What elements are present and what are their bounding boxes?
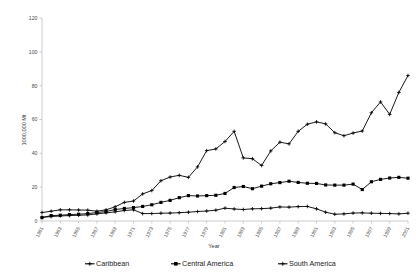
data-point-marker — [150, 203, 153, 206]
y-tick-label: 80 — [32, 83, 38, 89]
x-tick-label: 1979 — [199, 225, 210, 238]
data-point-marker — [59, 214, 62, 217]
legend-label: Central America — [182, 259, 233, 268]
data-point-marker — [297, 181, 300, 184]
data-point-marker — [287, 180, 290, 183]
data-point-marker — [324, 183, 327, 186]
data-point-marker — [177, 211, 181, 215]
data-point-marker — [388, 176, 391, 179]
data-point-marker — [342, 212, 346, 216]
data-point-marker — [342, 134, 346, 138]
x-tick-label: 1993 — [327, 225, 338, 238]
data-point-marker — [223, 206, 227, 210]
data-point-marker — [233, 186, 236, 189]
data-point-marker — [306, 182, 309, 185]
data-point-marker — [159, 211, 163, 215]
data-point-marker — [86, 212, 89, 215]
data-point-marker — [77, 213, 80, 216]
data-point-marker — [187, 210, 191, 214]
data-point-marker — [49, 209, 53, 213]
data-point-marker — [397, 212, 401, 216]
x-tick-label: 1965 — [71, 225, 82, 238]
legend-item-central-america[interactable]: Central America — [171, 259, 233, 268]
data-point-marker — [397, 176, 400, 179]
data-point-marker — [178, 196, 181, 199]
x-tick-label: 1977 — [180, 225, 191, 238]
data-point-marker — [242, 208, 246, 212]
data-point-marker — [333, 212, 337, 216]
x-tick-label: 1971 — [125, 225, 136, 238]
chart-figure: 020406080100120 196119631965196719691971… — [0, 0, 416, 277]
data-point-marker — [260, 207, 264, 211]
data-point-marker — [379, 178, 382, 181]
data-point-marker — [232, 207, 236, 211]
data-point-marker — [251, 207, 255, 211]
x-tick-label: 1991 — [308, 225, 319, 238]
data-point-marker — [40, 216, 43, 219]
data-point-marker — [397, 91, 401, 95]
data-point-marker — [296, 205, 300, 209]
y-tick-label: 20 — [32, 184, 38, 190]
data-point-marker — [251, 187, 254, 190]
data-point-marker — [242, 185, 245, 188]
data-point-marker — [214, 194, 217, 197]
x-tick-label: 1987 — [272, 225, 283, 238]
data-point-marker — [406, 74, 410, 78]
data-point-marker — [351, 131, 355, 135]
data-point-marker — [242, 156, 246, 160]
data-point-marker — [360, 129, 364, 133]
data-point-marker — [324, 210, 328, 214]
chart-plot-area: 020406080100120 196119631965196719691971… — [0, 0, 416, 277]
data-point-marker — [77, 208, 81, 212]
data-point-marker — [205, 209, 209, 213]
data-point-marker — [315, 207, 319, 211]
y-tick-label: 60 — [32, 116, 38, 122]
data-point-marker — [68, 213, 71, 216]
legend-item-south-america[interactable]: South America — [278, 259, 336, 268]
data-point-marker — [159, 201, 162, 204]
data-point-marker — [406, 211, 410, 215]
y-axis-ticks: 020406080100120 — [29, 15, 42, 224]
x-tick-label: 2001 — [400, 225, 411, 238]
data-point-marker — [278, 181, 281, 184]
data-point-marker — [68, 208, 72, 212]
data-point-marker — [223, 192, 226, 195]
data-point-marker — [169, 199, 172, 202]
legend-label: Caribbean — [96, 259, 129, 268]
data-point-marker — [352, 183, 355, 186]
data-point-marker — [214, 208, 218, 212]
data-point-marker — [360, 211, 364, 215]
data-point-marker — [174, 262, 178, 266]
data-point-marker — [177, 174, 181, 178]
x-tick-label: 1985 — [254, 225, 265, 238]
y-axis-title: 1000,000 Mt — [21, 114, 27, 146]
data-point-marker — [281, 262, 285, 266]
data-point-marker — [333, 184, 336, 187]
data-point-marker — [379, 212, 383, 216]
x-tick-label: 1963 — [52, 225, 63, 238]
data-point-marker — [342, 184, 345, 187]
data-point-marker — [361, 188, 364, 191]
y-tick-label: 120 — [29, 15, 38, 21]
data-point-marker — [370, 180, 373, 183]
legend-item-caribbean[interactable]: Caribbean — [85, 259, 129, 268]
data-point-marker — [141, 212, 145, 216]
data-point-marker — [315, 120, 319, 124]
x-tick-label: 1975 — [162, 225, 173, 238]
data-point-marker — [187, 194, 190, 197]
x-axis-title: Year — [208, 243, 219, 249]
x-tick-label: 1961 — [34, 225, 45, 238]
legend-label: South America — [289, 259, 336, 268]
data-point-marker — [86, 208, 90, 212]
x-tick-label: 1967 — [89, 225, 100, 238]
data-point-marker — [141, 205, 144, 208]
data-point-marker — [370, 211, 374, 215]
data-point-marker — [88, 262, 92, 266]
y-tick-label: 0 — [35, 218, 38, 224]
x-tick-label: 1973 — [144, 225, 155, 238]
data-point-marker — [205, 194, 208, 197]
data-point-marker — [269, 206, 273, 210]
data-point-marker — [40, 211, 44, 215]
data-point-marker — [278, 205, 282, 209]
x-tick-label: 1999 — [382, 225, 393, 238]
